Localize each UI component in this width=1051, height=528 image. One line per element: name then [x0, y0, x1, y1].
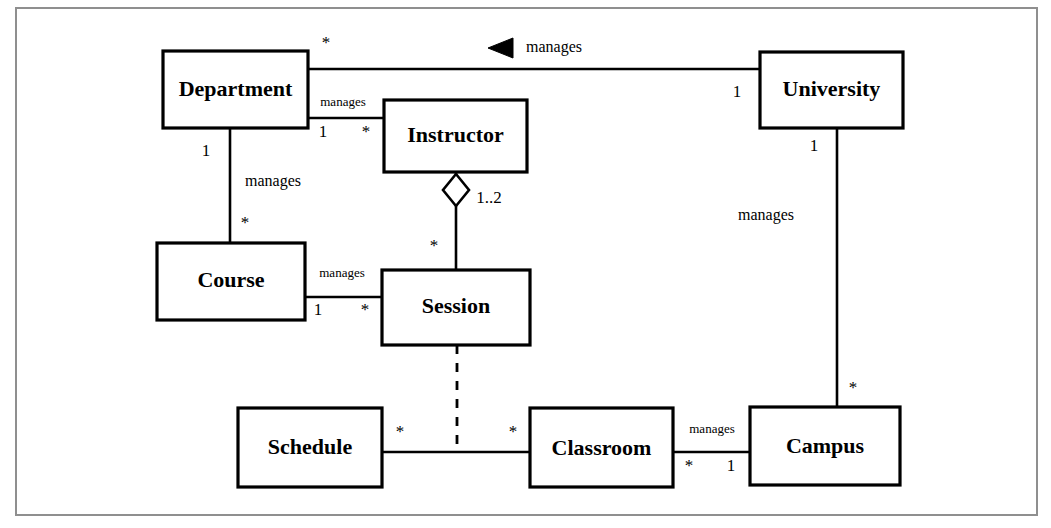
class-box-session[interactable]: Session: [382, 270, 530, 345]
multiplicity-university-side: 1: [810, 136, 819, 155]
class-name-schedule: Schedule: [268, 434, 353, 459]
class-box-classroom[interactable]: Classroom: [530, 408, 673, 487]
association-label-manages: manages: [526, 38, 582, 56]
association-label-manages: manages: [319, 265, 364, 280]
class-name-campus: Campus: [786, 433, 865, 458]
multiplicity-department-side: 1: [319, 122, 328, 141]
class-box-department[interactable]: Department: [163, 51, 308, 128]
multiplicity-department-side: 1: [202, 141, 211, 160]
class-box-schedule[interactable]: Schedule: [238, 408, 382, 487]
multiplicity-session-side: *: [361, 300, 370, 319]
multiplicity-classroom-side: *: [509, 422, 518, 441]
association-label-manages: manages: [738, 206, 794, 224]
association-classroom-campus[interactable]: manages * 1: [673, 421, 750, 475]
class-box-instructor[interactable]: Instructor: [384, 100, 527, 172]
diagram-canvas: manages * 1 manages 1 * 1 manages * 1..2…: [0, 0, 1051, 528]
association-university-campus[interactable]: 1 manages *: [738, 128, 857, 407]
association-department-instructor[interactable]: manages 1 *: [308, 94, 384, 141]
multiplicity-classroom-side: *: [685, 456, 694, 475]
association-department-course[interactable]: 1 manages *: [202, 128, 301, 243]
multiplicity-schedule-side: *: [396, 422, 405, 441]
class-box-university[interactable]: University: [760, 52, 903, 128]
multiplicity-instructor-side: *: [362, 122, 371, 141]
uml-class-diagram: manages * 1 manages 1 * 1 manages * 1..2…: [0, 0, 1051, 528]
class-box-course[interactable]: Course: [157, 243, 305, 320]
association-department-university[interactable]: manages * 1: [308, 33, 760, 101]
multiplicity-campus-side: 1: [727, 456, 736, 475]
association-label-manages: manages: [320, 94, 365, 109]
multiplicity-session-side: *: [430, 236, 439, 255]
association-course-session[interactable]: manages 1 *: [305, 265, 382, 319]
association-label-manages: manages: [689, 421, 734, 436]
multiplicity-campus-side: *: [849, 378, 858, 397]
multiplicity-course-side: 1: [314, 300, 323, 319]
multiplicity-course-side: *: [241, 213, 250, 232]
class-name-department: Department: [179, 76, 293, 101]
class-box-campus[interactable]: Campus: [750, 407, 900, 485]
aggregation-diamond-icon: [443, 174, 469, 206]
class-name-instructor: Instructor: [407, 122, 504, 147]
class-name-classroom: Classroom: [552, 435, 652, 460]
association-label-manages: manages: [245, 172, 301, 190]
multiplicity-instructor-side: 1..2: [476, 188, 502, 207]
navigation-arrow-icon: [488, 38, 513, 58]
class-name-university: University: [783, 76, 881, 101]
association-instructor-session[interactable]: 1..2 *: [430, 172, 502, 270]
class-name-course: Course: [197, 267, 264, 292]
class-name-session: Session: [422, 293, 490, 318]
multiplicity-university-side: 1: [733, 82, 742, 101]
multiplicity-department-side: *: [322, 33, 331, 52]
